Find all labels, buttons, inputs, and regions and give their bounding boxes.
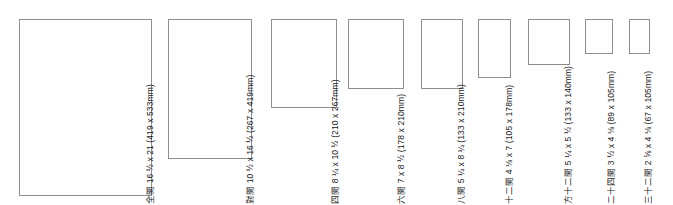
paper-rectangle [478,19,511,78]
paper-rectangle [348,19,404,89]
paper-size-label: 二十四開 3 ½ x 4 ⅛ (89 x 105mm) [607,71,616,204]
paper-size-label: 十二開 4 ⅛ x 7 (105 x 178mm) [505,85,514,204]
paper-size-label: 對開 10 ½ x 16 ½ (267 x 419mm) [246,75,255,204]
paper-rectangle [271,19,337,108]
paper-rectangle [168,19,252,159]
paper-size-label: 三十二開 2 ⅝ x 4 ⅛ (67 x 105mm) [644,71,653,204]
paper-size-comparison-chart: 全開 16 ½ x 21 (419 x 533mm)對開 10 ½ x 16 ½… [0,0,673,205]
paper-size-label: 八開 5 ¼ x 8 ¼ (133 x 210mm) [457,84,466,204]
paper-size-label: 方十二開 5 ¼ x 5 ½ (133 x 140mm) [564,66,573,204]
paper-rectangle [421,19,463,89]
paper-rectangle [19,19,152,196]
paper-size-label: 四開 8 ¼ x 10 ½ (210 x 267mm) [331,79,340,204]
paper-rectangle [528,19,570,65]
paper-size-label: 六開 7 x 8 ½ (178 x 210mm) [397,94,406,204]
paper-rectangle [585,19,613,54]
paper-rectangle [629,19,650,54]
paper-size-label: 全開 16 ½ x 21 (419 x 533mm) [146,84,155,204]
